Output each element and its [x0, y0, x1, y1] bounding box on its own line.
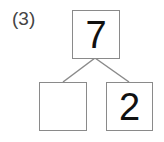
connector-line-right — [95, 58, 129, 82]
left-part-answer-box[interactable] — [39, 82, 87, 131]
right-part-box: 2 — [106, 82, 153, 131]
right-part-value: 2 — [119, 88, 140, 126]
connector-line-left — [63, 58, 95, 82]
whole-number-box: 7 — [72, 10, 120, 59]
whole-number-value: 7 — [85, 16, 106, 54]
number-bond-problem: (3) 7 2 — [0, 0, 164, 142]
problem-number-label: (3) — [12, 8, 35, 30]
